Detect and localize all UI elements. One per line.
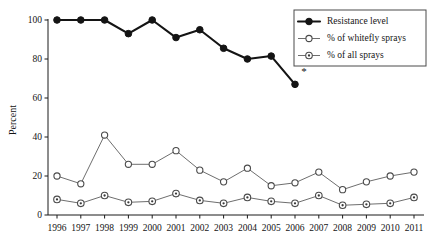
data-point-marker xyxy=(363,179,369,185)
data-point-marker-dot xyxy=(175,192,177,194)
y-tick-label: 20 xyxy=(33,171,43,181)
x-tick-label: 2009 xyxy=(357,223,376,233)
data-point-marker-dot xyxy=(294,202,296,204)
data-point-marker-dot xyxy=(270,200,272,202)
chart-legend: Resistance level% of whitefly sprays% of… xyxy=(294,10,426,66)
line-chart: 0204060801001996199719981999200020012002… xyxy=(0,0,433,241)
series-3 xyxy=(54,190,418,208)
data-point-marker xyxy=(197,167,203,173)
legend-label: % of whitefly sprays xyxy=(327,33,406,43)
x-tick-label: 2004 xyxy=(238,223,257,233)
data-point-marker-dot xyxy=(199,199,201,201)
legend-marker-dot xyxy=(308,54,310,56)
data-point-marker xyxy=(197,26,204,33)
x-tick-label: 1999 xyxy=(119,223,138,233)
x-tick-label: 1997 xyxy=(71,223,90,233)
series-line xyxy=(57,135,414,190)
data-point-marker xyxy=(387,173,393,179)
chart-figure: 0204060801001996199719981999200020012002… xyxy=(0,0,433,241)
series-line xyxy=(57,194,414,206)
x-tick-label: 2006 xyxy=(286,223,305,233)
y-tick-label: 0 xyxy=(37,210,42,220)
data-point-marker-dot xyxy=(365,203,367,205)
data-point-marker xyxy=(411,169,417,175)
y-tick-label: 100 xyxy=(28,15,43,25)
data-point-marker-dot xyxy=(80,202,82,204)
legend-label: Resistance level xyxy=(327,16,389,26)
data-point-marker xyxy=(173,148,179,154)
x-tick-label: 2008 xyxy=(333,223,352,233)
x-tick-label: 2003 xyxy=(214,223,233,233)
series-2 xyxy=(54,132,417,193)
x-tick-label: 2005 xyxy=(262,223,281,233)
data-point-marker xyxy=(125,30,132,37)
x-tick-label: 2011 xyxy=(405,223,424,233)
data-point-marker-dot xyxy=(341,204,343,206)
data-point-marker xyxy=(221,179,227,185)
data-point-marker xyxy=(244,165,250,171)
data-point-marker-dot xyxy=(151,200,153,202)
series-line xyxy=(57,20,295,84)
x-tick-label: 2000 xyxy=(143,223,162,233)
legend-marker xyxy=(306,18,313,25)
x-tick-label: 2001 xyxy=(167,223,186,233)
data-point-marker-dot xyxy=(222,202,224,204)
data-point-marker-dot xyxy=(413,196,415,198)
y-tick-label: 40 xyxy=(33,132,43,142)
legend-marker xyxy=(306,35,312,41)
y-tick-label: 80 xyxy=(33,54,43,64)
data-point-marker xyxy=(54,17,61,24)
data-point-marker xyxy=(149,161,155,167)
data-point-marker xyxy=(101,17,108,24)
data-point-marker-dot xyxy=(246,196,248,198)
data-point-marker xyxy=(149,17,156,24)
data-point-marker xyxy=(173,34,180,41)
x-tick-label: 1998 xyxy=(95,223,114,233)
y-tick-label: 60 xyxy=(33,93,43,103)
data-point-marker xyxy=(268,53,275,60)
data-point-marker xyxy=(102,132,108,138)
data-point-marker xyxy=(316,169,322,175)
data-point-marker-dot xyxy=(127,201,129,203)
x-tick-label: 1996 xyxy=(48,223,67,233)
y-axis-title: Percent xyxy=(7,105,18,135)
data-point-marker xyxy=(54,173,60,179)
data-point-marker xyxy=(340,187,346,193)
data-point-marker xyxy=(125,161,131,167)
x-tick-label: 2007 xyxy=(309,223,328,233)
data-point-marker xyxy=(78,17,85,24)
data-point-marker xyxy=(292,180,298,186)
data-point-marker xyxy=(220,45,227,52)
x-tick-label: 2010 xyxy=(381,223,400,233)
data-point-marker-dot xyxy=(103,194,105,196)
data-point-marker-dot xyxy=(318,194,320,196)
data-point-marker-dot xyxy=(389,202,391,204)
x-tick-label: 2002 xyxy=(190,223,209,233)
data-point-marker xyxy=(78,181,84,187)
data-point-marker xyxy=(244,56,251,63)
data-point-marker xyxy=(268,183,274,189)
series-1 xyxy=(54,17,299,88)
data-point-marker-dot xyxy=(56,198,58,200)
legend-label: % of all sprays xyxy=(327,50,384,60)
data-point-marker xyxy=(292,81,299,88)
